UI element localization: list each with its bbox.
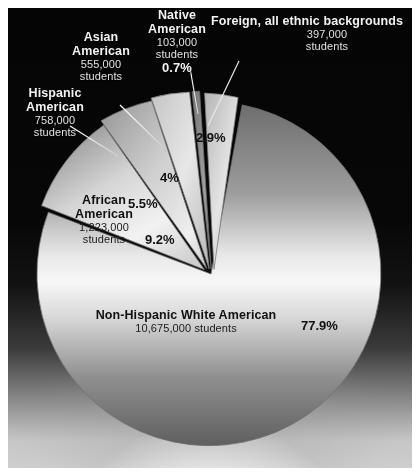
callout-native-percent: 0.7% <box>133 61 221 76</box>
percent-asian: 4% <box>160 170 179 185</box>
callout-hispanic-line1: Hispanic <box>8 86 102 100</box>
percent-white: 77.9% <box>301 318 338 333</box>
callout-hispanic-unit: students <box>8 126 102 138</box>
callout-hispanic-american: Hispanic American 758,000 students <box>8 86 102 139</box>
callout-white-line1: Non-Hispanic White American <box>80 308 292 322</box>
callout-native-american: Native American 103,000 students 0.7% <box>133 8 221 75</box>
callout-foreign: Foreign, all ethnic backgrounds 397,000 … <box>211 14 412 53</box>
figure-root: Asian American 555,000 students Native A… <box>0 0 420 476</box>
percent-foreign: 2.9% <box>196 130 226 145</box>
callout-african-count: 1,223,000 <box>58 221 150 233</box>
callout-native-line1: Native <box>133 8 221 22</box>
callout-native-unit: students <box>133 48 221 60</box>
callout-white-count: 10,675,000 students <box>80 322 292 334</box>
callout-african-unit: students <box>58 233 150 245</box>
callout-hispanic-count: 758,000 <box>8 114 102 126</box>
callout-native-count: 103,000 <box>133 36 221 48</box>
callout-hispanic-line2: American <box>8 100 102 114</box>
callout-foreign-line1: Foreign, all ethnic backgrounds <box>211 14 412 28</box>
percent-hispanic: 5.5% <box>128 196 158 211</box>
callout-non-hispanic-white-american: Non-Hispanic White American 10,675,000 s… <box>80 308 292 334</box>
callout-foreign-unit: students <box>211 40 412 52</box>
chart-panel: Asian American 555,000 students Native A… <box>8 8 412 468</box>
callout-foreign-count: 397,000 <box>211 28 412 40</box>
percent-african: 9.2% <box>145 232 175 247</box>
callout-native-line2: American <box>133 22 221 36</box>
